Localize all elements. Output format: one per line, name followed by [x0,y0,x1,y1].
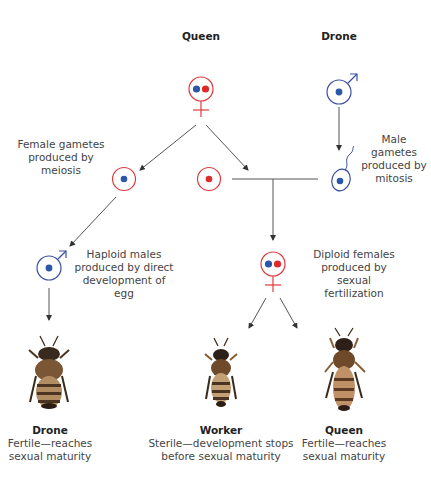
diploid-females-label: Diploid females produced by sexual ferti… [306,248,402,300]
queen-parent-title: Queen [176,30,226,42]
female-gametes-label: Female gametes produced by meiosis [16,138,106,177]
diagram-lines [0,0,431,477]
worker-caption: Worker Sterile—development stops before … [148,424,294,463]
drone-parent-title: Drone [314,30,364,42]
haploid-males-label: Haploid males produced by direct develop… [74,248,174,300]
egg-blue-icon [113,168,136,191]
sperm-icon [329,146,354,193]
drone-male-symbol-icon [327,74,357,104]
diploid-female-symbol-icon [261,252,285,292]
worker-bee-image [205,338,237,407]
haploid-male-symbol-icon [37,251,66,280]
drone-caption: Drone Fertile—reaches sexual maturity [4,424,96,463]
male-gametes-label: Male gametes produced by mitosis [357,133,431,185]
drone-bee-image [29,336,69,409]
queen-female-symbol-icon [189,77,213,117]
queen-caption: Queen Fertile—reaches sexual maturity [298,424,390,463]
queen-bee-image [325,328,365,411]
egg-red-icon [198,168,221,191]
honeybee-sex-determination-diagram: Queen Drone Female gametes produced by m… [0,0,431,477]
